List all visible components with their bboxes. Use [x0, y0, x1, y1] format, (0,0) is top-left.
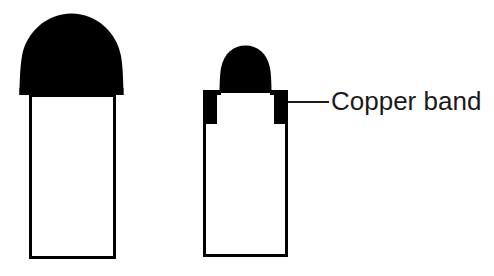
left-dome-rim-overlap [20, 88, 124, 97]
copper-band-left-bar [203, 90, 217, 124]
copper-band-label: Copper band [331, 86, 481, 116]
right-rim-left-segment [203, 90, 221, 95]
right-dome-shape [220, 46, 272, 93]
right-panel-copper-band-vessel [203, 46, 288, 256]
figure-canvas: Copper band [0, 0, 494, 276]
left-dome-shape [20, 14, 124, 96]
copper-band-right-bar [274, 90, 288, 124]
left-vessel-body [31, 96, 115, 258]
left-panel-unconstrained-vessel [20, 14, 124, 258]
diagram-svg [0, 0, 494, 276]
right-rim-right-segment [270, 90, 288, 95]
